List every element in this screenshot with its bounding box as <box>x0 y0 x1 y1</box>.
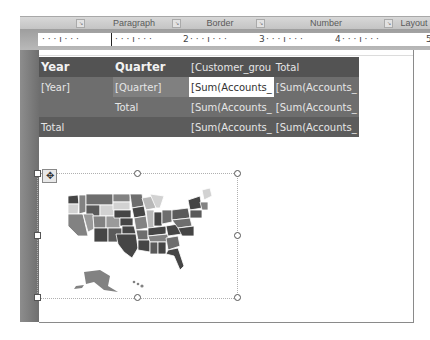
cell-quarter[interactable]: [Quarter] <box>113 77 189 97</box>
cell-sum[interactable]: [Sum(Accounts_ <box>189 117 274 137</box>
table-row: Total [Sum(Accounts_ [Sum(Accounts_ <box>39 117 359 137</box>
border-launcher-icon[interactable]: ↘ <box>256 19 265 28</box>
tablix-header-row: Year Quarter [Customer_grou Total <box>39 57 359 77</box>
resize-handle-e[interactable] <box>234 232 241 239</box>
resize-handle-se[interactable] <box>234 294 241 301</box>
cell-empty[interactable] <box>113 117 189 137</box>
cell-quarter-total[interactable]: Total <box>113 97 189 117</box>
indent-marker[interactable] <box>111 33 112 46</box>
paragraph-launcher-icon[interactable]: ↘ <box>172 19 181 28</box>
map-report-item[interactable] <box>37 173 238 299</box>
header-total[interactable]: Total <box>274 57 359 77</box>
resize-handle-w[interactable] <box>34 232 41 239</box>
tablix-matrix[interactable]: Year Quarter [Customer_grou Total [Year]… <box>39 57 359 137</box>
ruler-mark: 5 <box>426 33 430 46</box>
horizontal-ruler[interactable]: · · · ı · · · · · · ı · · · 2 · · · ı · … <box>38 33 430 46</box>
cell-sum-total[interactable]: [Sum(Accounts_ <box>274 97 359 117</box>
header-customer-group[interactable]: [Customer_grou <box>189 57 274 77</box>
ribbon-group-border: Border <box>182 17 258 29</box>
cell-sum[interactable]: [Sum(Accounts_ <box>189 97 274 117</box>
table-row: Total [Sum(Accounts_ [Sum(Accounts_ <box>39 97 359 117</box>
header-year[interactable]: Year <box>39 57 113 77</box>
move-handle-icon[interactable]: ✥ <box>42 169 57 183</box>
ruler-mark: 4 <box>335 33 341 46</box>
cell-year[interactable]: [Year] <box>39 77 113 97</box>
resize-handle-sw[interactable] <box>34 294 41 301</box>
resize-handle-ne[interactable] <box>234 170 241 177</box>
cell-sum-total[interactable]: [Sum(Accounts_ <box>274 117 359 137</box>
ruler-mark: 3 <box>259 33 265 46</box>
cell-sum-total[interactable]: [Sum(Accounts_ <box>274 77 359 97</box>
header-quarter[interactable]: Quarter <box>113 57 189 77</box>
cell-grand-total-label[interactable]: Total <box>39 117 113 137</box>
cell-empty[interactable] <box>39 97 113 117</box>
ribbon-group-number: Number <box>266 17 386 29</box>
cell-sum-selected[interactable]: [Sum(Accounts_ <box>189 77 274 97</box>
us-map-image <box>38 174 237 298</box>
ribbon-group-bar: ↘ Paragraph ↘ Border ↘ Number ↘ Layout <box>20 16 430 30</box>
resize-handle-s[interactable] <box>134 294 141 301</box>
dialog-launcher-icon[interactable]: ↘ <box>76 19 85 28</box>
page-header-line <box>39 55 413 56</box>
resize-handle-nw[interactable] <box>34 170 41 177</box>
resize-handle-n[interactable] <box>134 170 141 177</box>
ribbon-group-paragraph: Paragraph <box>86 17 182 29</box>
ruler-mark: 2 <box>183 33 189 46</box>
table-row: [Year] [Quarter] [Sum(Accounts_ [Sum(Acc… <box>39 77 359 97</box>
ribbon-group-layout: Layout <box>394 17 430 29</box>
number-launcher-icon[interactable]: ↘ <box>384 19 393 28</box>
